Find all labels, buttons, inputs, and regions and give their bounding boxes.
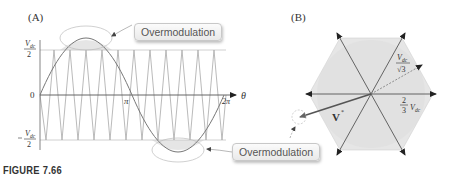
panel-a-plot: V dc 2 0 V dc 2 π 2π θ — [18, 25, 246, 162]
xtick-2pi: 2π — [222, 97, 231, 106]
ytick-vdc-half: V dc 2 — [24, 39, 36, 59]
svg-text:dc: dc — [30, 43, 36, 49]
svg-text:2: 2 — [27, 140, 31, 149]
label-v-star: V — [332, 111, 340, 123]
leader-top — [112, 25, 132, 36]
ytick-zero: 0 — [30, 90, 35, 100]
panel-b-hexagon: V dc √3 2 3 V dc V * — [290, 33, 436, 155]
xtick-pi: π — [124, 96, 129, 106]
svg-text:2: 2 — [27, 50, 31, 59]
overmodulation-callout-bottom: Overmodulation — [232, 143, 320, 161]
svg-text:dc: dc — [402, 57, 408, 63]
svg-text:√3: √3 — [397, 65, 405, 74]
overmodulation-callout-top: Overmodulation — [134, 23, 222, 41]
ytick-neg-vdc-half: V dc 2 — [18, 129, 36, 149]
leader-bottom — [207, 149, 232, 152]
label-v-star-sup: * — [341, 109, 344, 115]
svg-text:dc: dc — [30, 133, 36, 139]
leader-vector — [290, 127, 295, 138]
svg-text:2: 2 — [402, 96, 406, 105]
overmod-circle-vector — [292, 110, 306, 124]
overmod-region-top — [60, 40, 112, 50]
x-axis-label-theta: θ — [241, 90, 246, 101]
figure-caption: FIGURE 7.66 — [3, 164, 62, 176]
panel-b-label: (B) — [291, 11, 306, 23]
svg-text:dc: dc — [415, 107, 421, 113]
panel-a-label: (A) — [28, 11, 43, 23]
figure-canvas: V dc 2 0 V dc 2 π 2π θ — [0, 0, 457, 181]
svg-text:3: 3 — [402, 106, 406, 115]
